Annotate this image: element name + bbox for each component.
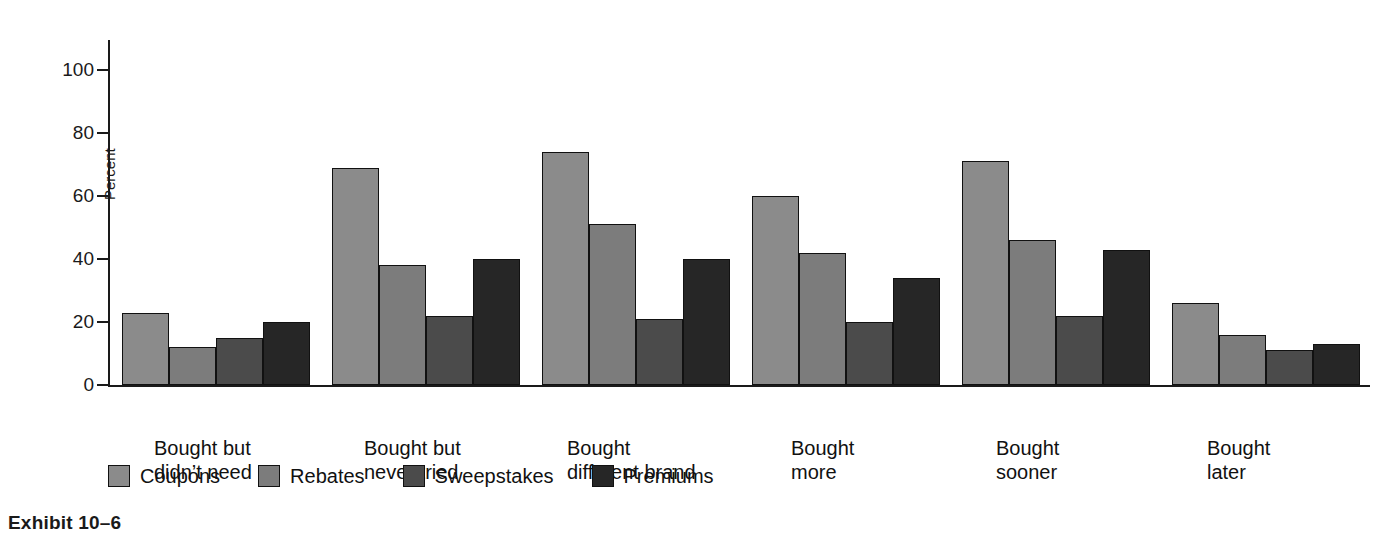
bar-group [542,40,730,385]
bar-rebates [379,265,426,385]
bar-premiums [683,259,730,385]
x-axis-line [108,385,1370,387]
bar-sweepstakes [216,338,263,385]
legend-swatch-rebates [258,465,280,487]
y-axis-tick-label: 40 [38,249,94,268]
bar-premiums [1313,344,1360,385]
bar-sweepstakes [1266,350,1313,385]
legend-swatch-sweepstakes [403,465,425,487]
category-label: Bought later [1207,436,1270,484]
bar-rebates [799,253,846,385]
y-axis-tick [97,195,109,197]
category-label: Bought sooner [996,436,1059,484]
y-axis-tick-label: 80 [38,123,94,142]
y-axis-line [108,40,110,387]
bar-group [332,40,520,385]
legend-item: Rebates [258,465,365,487]
legend-label: Premiums [624,466,714,486]
bar-group [1172,40,1360,385]
bar-coupons [752,196,799,385]
bar-group [752,40,940,385]
legend-swatch-premiums [592,465,614,487]
y-axis-tick-label: 0 [38,375,94,394]
y-axis-tick-label: 100 [38,60,94,79]
bar-coupons [962,161,1009,385]
y-axis-tick [97,132,109,134]
bar-premiums [473,259,520,385]
bar-coupons [332,168,379,385]
legend-item: Sweepstakes [403,465,554,487]
bar-coupons [122,313,169,385]
bar-group [962,40,1150,385]
legend-item: Premiums [592,465,714,487]
bar-premiums [263,322,310,385]
y-axis-tick [97,384,109,386]
legend-label: Sweepstakes [435,466,554,486]
bar-sweepstakes [426,316,473,385]
y-axis-tick [97,69,109,71]
bar-rebates [1219,335,1266,385]
legend-label: Rebates [290,466,365,486]
bar-rebates [1009,240,1056,385]
chart-plot-area: Percent 020406080100 Bought but didn’t n… [108,40,1370,387]
legend-label: Coupons [140,466,220,486]
y-axis-title: Percent [102,148,117,200]
chart-legend: CouponsRebatesSweepstakesPremiums [108,465,752,487]
legend-swatch-coupons [108,465,130,487]
legend-item: Coupons [108,465,220,487]
y-axis-tick [97,258,109,260]
y-axis-tick-label: 60 [38,186,94,205]
bar-rebates [169,347,216,385]
y-axis-tick [97,321,109,323]
bar-group [122,40,310,385]
y-axis-tick-label: 20 [38,312,94,331]
exhibit-figure: Percent 020406080100 Bought but didn’t n… [0,0,1391,544]
bar-coupons [1172,303,1219,385]
bar-rebates [589,224,636,385]
bar-sweepstakes [636,319,683,385]
bar-premiums [1103,250,1150,385]
bar-coupons [542,152,589,385]
bar-sweepstakes [1056,316,1103,385]
bar-premiums [893,278,940,385]
category-label: Bought more [791,436,854,484]
exhibit-caption: Exhibit 10–6 [8,512,121,534]
bar-sweepstakes [846,322,893,385]
